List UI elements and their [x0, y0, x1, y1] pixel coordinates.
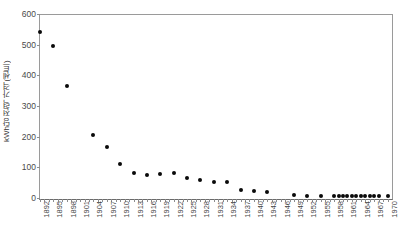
y-axis-tick: 300: [10, 101, 36, 111]
x-axis-tick: 1910: [122, 201, 131, 218]
data-point: [350, 194, 354, 198]
y-axis-tick-mark: [37, 137, 40, 138]
data-point: [252, 189, 256, 193]
data-point: [91, 133, 95, 137]
x-axis-tick: 1895: [55, 201, 64, 218]
x-axis-tick: 1901: [82, 201, 91, 218]
data-point: [341, 194, 345, 198]
data-point: [337, 194, 341, 198]
x-axis-tick: 1916: [149, 201, 158, 218]
data-point: [332, 194, 336, 198]
y-axis-tick: 400: [10, 70, 36, 80]
data-point: [372, 194, 376, 198]
y-axis-tick: 100: [10, 162, 36, 172]
x-axis-tick: 1943: [269, 201, 278, 218]
data-point: [158, 172, 162, 176]
x-axis-tick: 1892: [42, 201, 51, 218]
data-point: [225, 180, 229, 184]
x-axis-tick: 1940: [256, 201, 265, 218]
x-axis-tick: 1961: [349, 201, 358, 218]
x-axis-tick: 1934: [229, 201, 238, 218]
y-axis-tick-mark: [37, 14, 40, 15]
x-axis-tick: 1937: [243, 201, 252, 218]
data-point: [212, 180, 216, 184]
x-axis-tick: 1964: [363, 201, 372, 218]
data-point: [319, 194, 323, 198]
x-axis-tick: 1928: [202, 201, 211, 218]
x-axis-tick: 1952: [309, 201, 318, 218]
y-axis-tick: 600: [10, 9, 36, 19]
data-point: [172, 171, 176, 175]
x-axis-tick: 1949: [296, 201, 305, 218]
data-point: [363, 194, 367, 198]
y-axis-tick-labels: 0100200300400500600: [8, 0, 36, 239]
data-point: [345, 194, 349, 198]
y-axis-tick: 200: [10, 132, 36, 142]
x-axis-tick: 1913: [136, 201, 145, 218]
y-axis-tick: 0: [10, 193, 36, 203]
y-axis-tick: 500: [10, 40, 36, 50]
data-point: [145, 173, 149, 177]
scatter-chart: kWh당 전력 가격(센트) 0100200300400500600 18921…: [0, 0, 405, 239]
x-axis-tick: 1931: [216, 201, 225, 218]
data-point: [38, 30, 42, 34]
data-point: [386, 194, 390, 198]
data-point: [198, 178, 202, 182]
y-axis-tick-mark: [37, 75, 40, 76]
data-point: [118, 162, 122, 166]
x-axis-tick-labels: 1892189518981901190419071910191319161919…: [39, 201, 393, 239]
x-axis-tick: 1967: [376, 201, 385, 218]
data-point: [51, 44, 55, 48]
x-axis-tick: 1907: [109, 201, 118, 218]
x-axis-tick: 1922: [176, 201, 185, 218]
y-axis-tick-mark: [37, 45, 40, 46]
data-point: [359, 194, 363, 198]
plot-area: [39, 14, 393, 200]
data-point: [239, 188, 243, 192]
data-point: [292, 193, 296, 197]
data-point: [132, 171, 136, 175]
data-point: [105, 145, 109, 149]
y-axis-tick-mark: [37, 167, 40, 168]
data-point: [185, 176, 189, 180]
x-axis-tick: 1904: [95, 201, 104, 218]
y-axis-tick-mark: [37, 106, 40, 107]
data-point: [377, 194, 381, 198]
x-axis-tick: 1919: [162, 201, 171, 218]
data-point: [305, 194, 309, 198]
x-axis-tick: 1970: [390, 201, 399, 218]
x-axis-tick: 1958: [336, 201, 345, 218]
data-point: [265, 190, 269, 194]
data-point: [354, 194, 358, 198]
x-axis-tick: 1946: [283, 201, 292, 218]
x-axis-tick: 1925: [189, 201, 198, 218]
data-point: [368, 194, 372, 198]
x-axis-tick: 1898: [69, 201, 78, 218]
data-point: [65, 84, 69, 88]
x-axis-tick: 1955: [323, 201, 332, 218]
